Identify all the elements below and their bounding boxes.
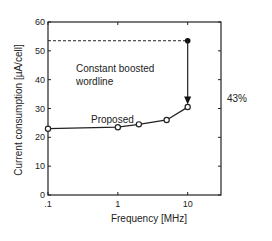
data-point-proposed xyxy=(185,104,190,109)
y-tick-label: 10 xyxy=(35,161,45,171)
y-tick-label: 30 xyxy=(35,104,45,114)
plot-frame xyxy=(48,22,221,195)
chart: 0102030405060 .1110 Frequency [MHz] Curr… xyxy=(0,0,272,241)
y-tick-label: 20 xyxy=(35,132,45,142)
annotation-proposed: Proposed xyxy=(91,114,134,125)
data-point-proposed xyxy=(136,122,141,127)
y-tick-label: 60 xyxy=(35,17,45,27)
arrow-head-icon xyxy=(184,97,191,105)
y-tick-label: 40 xyxy=(35,75,45,85)
annotation-43-percent: 43% xyxy=(227,93,247,104)
data-point-proposed xyxy=(115,125,120,130)
data-point-proposed xyxy=(45,126,50,131)
annotation-wordline: wordline xyxy=(75,76,114,87)
x-tick-label: 10 xyxy=(183,199,193,209)
data-point-proposed xyxy=(164,117,169,122)
x-tick-label: .1 xyxy=(44,199,52,209)
y-axis-label: Current consumption [µA/cell] xyxy=(13,44,24,176)
y-tick-label: 50 xyxy=(35,46,45,56)
x-tick-label: 1 xyxy=(115,199,120,209)
x-axis-label: Frequency [MHz] xyxy=(111,213,187,224)
annotation-constant-boosted: Constant boosted xyxy=(76,63,154,74)
